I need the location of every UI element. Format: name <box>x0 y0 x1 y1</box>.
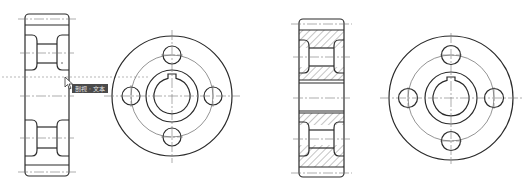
drawing-canvas[interactable] <box>0 0 530 187</box>
snap-tooltip: 剖视 · 文本 <box>72 84 108 93</box>
side-view-left <box>2 14 150 176</box>
front-view-left <box>104 30 240 163</box>
section-view-right <box>291 19 352 177</box>
front-view-right <box>380 33 522 164</box>
